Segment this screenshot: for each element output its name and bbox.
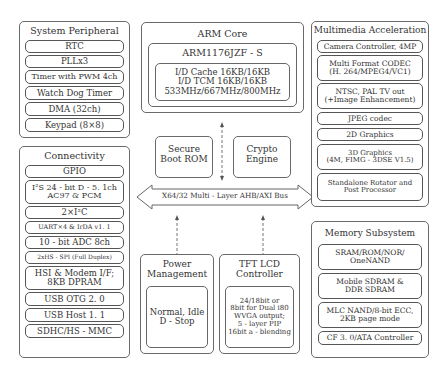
- timer-pwm-item: Timer with PWM 4ch: [25, 70, 124, 84]
- connectivity-title: Connectivity: [20, 150, 129, 161]
- usb-host-item: USB Host 1. 1: [25, 308, 124, 322]
- crypto-engine-label: Crypto Engine: [234, 145, 290, 165]
- memory-block: Memory Subsystem SRAM/ROM/NOR/ OneNAND M…: [311, 221, 429, 358]
- sdram-item: Mobile SDRAM & DDR SDRAM: [318, 273, 422, 299]
- uart-item: UART×4 & IrDA v1. 1: [25, 221, 124, 234]
- 2d-graphics-item: 2D Graphics: [317, 128, 423, 141]
- i2s-item: I²S 24 - bit D - 5. 1ch AC97 & PCM: [25, 180, 124, 204]
- rotator-item: Standalone Rotator and Post Processor: [317, 173, 423, 201]
- tft-lcd-details: 24/18bit or 8bit for Dual i80 WVGA outpu…: [225, 286, 294, 348]
- hsi-modem-item: HSI & Modem I/F; 8KB DPRAM: [25, 266, 124, 290]
- pll-item: PLLx3: [25, 55, 124, 68]
- tft-lcd-title: TFT LCD Controller: [220, 260, 299, 280]
- multimedia-title: Multimedia Acceleration: [312, 25, 428, 35]
- spi-item: 2xHS - SPI (Full Duplex): [25, 251, 124, 264]
- camera-controller-item: Camera Controller, 4MP: [317, 40, 423, 53]
- secure-boot-rom-label: Secure Boot ROM: [156, 145, 212, 165]
- bus-label: X64/32 Multi - Layer AHB/AXI Bus: [150, 192, 300, 200]
- sram-item: SRAM/ROM/NOR/ OneNAND: [318, 244, 422, 270]
- 3d-graphics-item: 3D Graphics (4M, FIMG - 3DSE V1.5): [317, 144, 423, 170]
- tv-out-item: NTSC, PAL TV out (+Image Enhancement): [317, 83, 423, 109]
- secure-boot-rom-block: Secure Boot ROM: [155, 136, 213, 178]
- connectivity-block: Connectivity GPIO I²S 24 - bit D - 5. 1c…: [19, 146, 130, 358]
- rtc-item: RTC: [25, 40, 124, 53]
- arm-core-block: ARM Core ARM1176JZF - S I/D Cache 16KB/1…: [141, 22, 304, 113]
- jpeg-item: JPEG codec: [317, 112, 423, 125]
- codec-item: Multi Format CODEC (H. 264/MPEG4/VC1): [317, 55, 423, 81]
- nand-item: MLC NAND/8-bit ECC, 2KB page mode: [318, 302, 422, 328]
- cf-ata-item: CF 3. 0/ATA Controller: [318, 331, 422, 345]
- sdhc-item: SDHC/HS - MMC: [25, 324, 124, 338]
- watchdog-item: Watch Dog Timer: [25, 86, 124, 100]
- crypto-engine-block: Crypto Engine: [233, 136, 291, 178]
- adc-item: 10 - bit ADC 8ch: [25, 236, 124, 249]
- arm-cpu-block: ARM1176JZF - S I/D Cache 16KB/16KB I/D T…: [148, 43, 297, 107]
- multimedia-block: Multimedia Acceleration Camera Controlle…: [311, 21, 429, 207]
- tft-lcd-block: TFT LCD Controller 24/18bit or 8bit for …: [219, 254, 300, 354]
- power-management-title: Power Management: [141, 260, 213, 280]
- memory-title: Memory Subsystem: [312, 228, 428, 238]
- power-management-block: Power Management Normal, Idle D - Stop: [140, 254, 214, 354]
- arm-cache-block: I/D Cache 16KB/16KB I/D TCM 16KB/16KB 53…: [155, 63, 290, 101]
- system-peripheral-title: System Peripheral: [20, 25, 129, 36]
- power-modes-block: Normal, Idle D - Stop: [146, 286, 208, 348]
- arm-cpu-label: ARM1176JZF - S: [149, 48, 296, 58]
- i2c-item: 2×I²C: [25, 206, 124, 219]
- usb-otg-item: USB OTG 2. 0: [25, 292, 124, 306]
- gpio-item: GPIO: [25, 165, 124, 178]
- arm-core-title: ARM Core: [142, 28, 303, 39]
- dma-item: DMA (32ch): [25, 102, 124, 116]
- keypad-item: Keypad (8×8): [25, 118, 124, 132]
- system-peripheral-block: System Peripheral RTC PLLx3 Timer with P…: [19, 21, 130, 138]
